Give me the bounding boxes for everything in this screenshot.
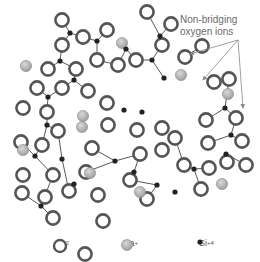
sodium-circle-icon <box>120 238 134 252</box>
oxygen-ring-icon <box>52 238 68 254</box>
sodium-ion <box>222 88 233 99</box>
silicon-ion <box>157 33 162 38</box>
silicon-ion <box>191 166 196 171</box>
silicon-ion <box>44 122 49 127</box>
silicon-ion <box>71 181 76 186</box>
oxygen-ion <box>100 23 113 36</box>
silicon-ion <box>57 58 62 63</box>
oxygen-ion <box>155 38 168 51</box>
sodium-ion <box>134 186 145 197</box>
oxygen-ion <box>46 211 59 224</box>
oxygen-ion <box>76 30 89 43</box>
silicon-ion <box>123 46 128 51</box>
network-canvas <box>0 0 260 262</box>
silicon-ion <box>223 151 228 156</box>
callout-arrow <box>238 40 243 108</box>
sodium-ion <box>175 69 186 80</box>
oxygen-ion <box>90 53 103 66</box>
oxygen-ion <box>235 134 248 147</box>
oxygen-ion <box>164 17 177 30</box>
oxygen-ion <box>194 182 207 195</box>
oxygen-ion <box>41 62 54 75</box>
oxygen-ion <box>123 173 136 186</box>
legend-sodium-charge: + <box>135 240 139 246</box>
sodium-ion <box>20 60 31 71</box>
silicon-ion <box>228 132 233 137</box>
silicon-ion <box>121 107 126 112</box>
oxygen-ion <box>222 72 235 85</box>
sodium-ion <box>17 144 28 155</box>
oxygen-ion <box>16 168 29 181</box>
oxygen-ion <box>178 50 191 63</box>
oxygen-ion <box>155 143 168 156</box>
oxygen-ion <box>30 81 43 94</box>
oxygen-ion <box>199 113 212 126</box>
oxygen-ion <box>55 13 68 26</box>
sodium-ion <box>76 121 87 132</box>
oxygen-ion <box>239 158 252 171</box>
oxygen-ion <box>129 53 142 66</box>
silicon-ion <box>112 158 117 163</box>
oxygen-ion <box>140 5 153 18</box>
silicon-ion <box>32 153 37 158</box>
oxygen-ion <box>177 158 190 171</box>
silicon-ion <box>67 30 72 35</box>
sodium-ion <box>216 178 227 189</box>
legend-sodium: Na+ <box>120 238 138 248</box>
oxygen-ion <box>130 123 143 136</box>
silicon-ion <box>45 94 50 99</box>
oxygen-ion <box>40 105 53 118</box>
oxygen-ion <box>96 214 109 227</box>
legend-silicon: Si+4 <box>196 238 214 248</box>
oxygen-ion <box>100 96 113 109</box>
oxygen-ion <box>155 121 168 134</box>
silicon-ion <box>139 109 144 114</box>
oxygen-ion <box>51 124 64 137</box>
oxygen-ion <box>81 84 94 97</box>
oxygen-ion <box>78 247 91 260</box>
silica-network-diagram: Non-bridging oxygen ions O−2 Na+ Si+4 <box>0 0 260 262</box>
oxygen-ion <box>85 141 98 154</box>
oxygen-ion <box>91 188 104 201</box>
silicon-ion <box>222 105 227 110</box>
silicon-dot-icon <box>196 238 204 246</box>
callout-line-2: oxygen ions <box>180 26 260 38</box>
oxygen-ion <box>46 168 59 181</box>
callout-line-1: Non-bridging <box>180 14 260 26</box>
oxygen-ion <box>202 161 215 174</box>
silicon-ion <box>94 38 99 43</box>
oxygen-ion <box>38 190 51 203</box>
legend-silicon-charge: +4 <box>207 240 214 246</box>
sodium-ion <box>77 110 88 121</box>
oxygen-ion <box>133 147 146 160</box>
oxygen-ion <box>35 138 48 151</box>
silicon-ion <box>149 57 154 62</box>
silicon-ion <box>161 75 166 80</box>
oxygen-ion <box>201 136 214 149</box>
non-bridging-oxygen-callout: Non-bridging oxygen ions <box>180 14 260 38</box>
silicon-ion <box>131 169 136 174</box>
silicon-ion <box>172 189 177 194</box>
legend-oxygen: O−2 <box>52 238 69 248</box>
sodium-ion <box>84 167 95 178</box>
oxygen-ion <box>101 118 114 131</box>
oxygen-ion <box>229 111 242 124</box>
oxygen-ion <box>69 62 82 75</box>
silicon-ion <box>71 77 76 82</box>
silicon-ion <box>59 156 64 161</box>
oxygen-ion <box>207 75 220 88</box>
oxygen-ion <box>111 58 124 71</box>
oxygen-ion <box>15 186 28 199</box>
oxygen-ion <box>55 38 68 51</box>
silicon-ion <box>38 203 43 208</box>
oxygen-ion <box>220 155 233 168</box>
oxygen-ion <box>55 81 68 94</box>
oxygen-ion <box>16 101 29 114</box>
oxygen-layer <box>14 5 252 260</box>
silicon-ion <box>154 182 159 187</box>
oxygen-ion <box>168 131 181 144</box>
bond-line <box>152 60 164 78</box>
